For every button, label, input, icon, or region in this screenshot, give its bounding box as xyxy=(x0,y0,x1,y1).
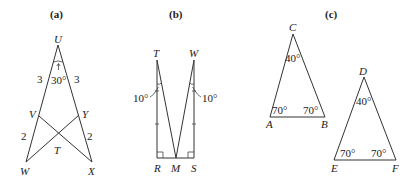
point-label-M: M xyxy=(170,162,181,174)
point-label-A: A xyxy=(265,118,273,130)
angle-arc-U xyxy=(53,61,63,62)
point-label-R: R xyxy=(153,162,161,174)
figure-b: (b) 10° 10° T W R M S xyxy=(133,8,217,174)
point-label-D: D xyxy=(358,65,367,77)
right-angle-S xyxy=(188,152,194,158)
point-label-C: C xyxy=(289,21,297,33)
point-label-S: S xyxy=(191,162,197,174)
point-label-F: F xyxy=(391,162,399,174)
angle-arc-T xyxy=(157,83,162,84)
point-label-X: X xyxy=(87,165,96,177)
side-UX xyxy=(58,45,92,162)
angle-label-D: 40° xyxy=(356,95,371,107)
angle-label-F: 70° xyxy=(371,147,386,159)
point-label-V: V xyxy=(29,108,37,120)
figure-c: (c) C A B 40° 70° 70° D E F 40° 70° 70° xyxy=(265,8,399,174)
angle-label-U: 30° xyxy=(51,74,66,86)
segment-VX xyxy=(39,116,92,162)
point-label-U: U xyxy=(54,33,63,45)
figure-a: (a) U 30° 3 3 V Y 2 2 T W X xyxy=(20,8,96,177)
point-label-Y: Y xyxy=(82,108,90,120)
right-angle-R xyxy=(157,152,163,158)
angle-label-C: 40° xyxy=(285,52,300,64)
length-label-YX: 2 xyxy=(87,130,93,142)
length-label-UV: 3 xyxy=(37,73,43,85)
angle-label-W: 10° xyxy=(202,92,217,104)
angle-label-T: 10° xyxy=(133,92,148,104)
segment-YW xyxy=(26,115,79,162)
length-label-VW: 2 xyxy=(21,130,27,142)
point-label-E: E xyxy=(330,162,338,174)
angle-label-A: 70° xyxy=(272,104,287,116)
point-label-W: W xyxy=(189,47,199,59)
angle-arc-W xyxy=(190,83,195,84)
segment-WM xyxy=(176,60,194,158)
length-label-UY: 3 xyxy=(74,73,80,85)
point-label-B: B xyxy=(321,118,328,130)
caption-b: (b) xyxy=(169,8,183,21)
angle-label-B: 70° xyxy=(303,104,318,116)
point-label-T: T xyxy=(153,47,160,59)
segment-TM xyxy=(157,60,176,158)
point-label-W: W xyxy=(20,165,30,177)
point-label-T: T xyxy=(54,144,61,156)
caption-c: (c) xyxy=(325,8,338,21)
geometry-figure: (a) U 30° 3 3 V Y 2 2 T W X (b) xyxy=(0,0,417,183)
caption-a: (a) xyxy=(50,8,63,21)
angle-label-E: 70° xyxy=(340,147,355,159)
